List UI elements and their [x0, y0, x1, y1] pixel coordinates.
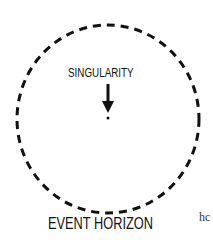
singularity-label: SINGULARITY: [68, 66, 134, 80]
arrow-head-icon: [102, 101, 114, 113]
black-hole-diagram: [0, 0, 213, 250]
cropped-text: hc: [199, 210, 210, 225]
event-horizon-label: EVENT HORIZON: [48, 215, 153, 233]
singularity-point: [107, 117, 110, 120]
